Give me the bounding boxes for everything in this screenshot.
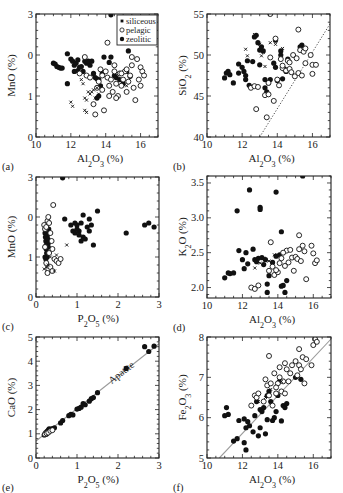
pelagic-point [103,69,108,74]
y-tick-label: 2.5 [191,247,204,258]
zeolitic-point [222,75,227,80]
zeolitic-point [235,436,240,441]
panel-label: (d) [173,322,186,334]
x-tick-label: 10 [202,300,213,311]
zeolitic-point [146,220,151,225]
y-axis-label: CaO (%) [5,377,18,417]
zeolitic-point [256,433,261,438]
zeolitic-point [108,54,113,59]
pelagic-point [126,79,131,84]
zeolitic-point [91,395,96,400]
zeolitic-point [247,423,252,428]
pelagic-point [302,249,307,254]
zeolitic-point [266,273,271,278]
zeolitic-point [108,12,113,17]
pelagic-point [105,40,110,45]
zeolitic-point [87,216,92,221]
zeolitic-point [151,224,156,229]
zeolitic-point [95,390,100,395]
zeolitic-point [65,81,70,86]
data-points [222,337,319,453]
x-tick-label: 16 [307,139,318,150]
pelagic-point [313,62,318,67]
y-tick-label: 3.0 [191,212,204,223]
zeolitic-point [79,220,84,225]
x-tick-label: 3 [156,299,161,310]
y-tick-label: 1 [28,91,33,102]
pelagic-point [114,81,119,86]
pelagic-point [261,399,266,404]
panel-f: 101214165678Al2O3 (%)Fe2O3 (%)(f) [173,332,331,493]
panel-b: 1012141640455055Al2O3 (%)SiO2 (%)(b) [173,9,330,174]
x-tick-label: 14 [273,460,284,471]
siliceous-point [244,48,247,51]
pelagic-point [91,102,96,107]
x-tick-label: 1 [74,460,79,471]
pelagic-point [309,363,314,368]
zeolitic-point [250,429,255,434]
siliceous-point [263,65,266,68]
pelagic-point [280,63,285,68]
pelagic-point [82,55,87,60]
x-tick-label: 14 [272,139,283,150]
y-tick-label: 2 [28,404,33,415]
pelagic-point [274,268,279,273]
zeolitic-point [124,230,129,235]
pelagic-point [138,83,143,88]
pelagic-point [309,243,314,248]
panel-c: 01230103P2O5 (%)MnO (%)(c) [2,172,162,334]
pelagic-point [124,89,129,94]
x-tick-label: 16 [135,139,146,150]
siliceous-point [125,84,128,87]
zeolitic-point [261,262,266,267]
zeolitic-point [91,242,96,247]
pelagic-point [296,27,301,32]
panel-label: (b) [173,161,186,173]
pelagic-point [47,251,52,256]
y-tick-label: 3 [28,172,33,183]
legend: siliceouspelagiczeolitic [117,15,157,45]
zeolitic-point [227,72,232,77]
siliceous-point [253,267,256,270]
pelagic-point [58,257,63,262]
pelagic-point [267,353,272,358]
zeolitic-point [126,48,131,53]
zeolitic-point [240,257,245,262]
zeolitic-point [250,247,255,252]
pelagic-point [48,231,53,236]
pelagic-point [297,347,302,352]
x-axis-label: P2O5 (%) [78,473,120,490]
pelagic-point [249,403,254,408]
pelagic-point [314,258,319,263]
pelagic-point [263,377,268,382]
y-axis-label: MnO (%) [5,54,18,97]
siliceous-point [92,88,95,91]
pelagic-point [267,393,272,398]
siliceous-point [269,41,272,44]
zeolitic-point [263,431,268,436]
zeolitic-point [231,80,236,85]
y-tick-label: 55 [194,9,205,20]
siliceous-point [85,99,88,102]
pelagic-point [96,79,101,84]
y-tick-label: 1 [28,428,33,439]
zeolitic-point [279,229,284,234]
panel-label: (c) [2,321,14,333]
y-tick-label: 7 [199,372,204,383]
pelagic-point [128,73,133,78]
pelagic-point [275,77,280,82]
zeolitic-point [282,290,287,295]
panel-a: 101214160103Al2O3 (%)MnO (%)(a)siliceous… [2,9,158,174]
x-axis-label: Al2O3 (%) [249,313,296,330]
pelagic-point [294,56,299,61]
zeolitic-point [75,57,80,62]
zeolitic-point [226,412,231,417]
zeolitic-point [243,250,248,255]
pelagic-point [46,215,51,220]
y-tick-label: 1 [28,252,33,263]
pelagic-point [129,63,134,68]
zeolitic-point [79,64,84,69]
siliceous-point [71,105,74,108]
siliceous-point [80,78,83,81]
x-tick-label: 12 [237,139,248,150]
